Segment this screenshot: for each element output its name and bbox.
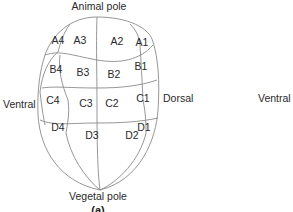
- diagram-labels: Animal pole Vegetal pole Ventral Dorsal …: [0, 0, 293, 212]
- cell-d3: D3: [85, 129, 99, 141]
- ventral-right-label: Ventral: [258, 92, 291, 104]
- cell-b4: B4: [50, 63, 63, 75]
- dorsal-label: Dorsal: [163, 92, 193, 104]
- cell-d2: D2: [125, 129, 139, 141]
- ventral-left-label: Ventral: [3, 98, 36, 110]
- vegetal-pole-label: Vegetal pole: [69, 190, 127, 202]
- cell-d1: D1: [137, 121, 151, 133]
- cell-a2: A2: [111, 35, 124, 47]
- cell-a3: A3: [74, 34, 87, 46]
- cell-a1: A1: [136, 36, 149, 48]
- cell-b1: B1: [135, 60, 148, 72]
- panel-label: (a): [91, 204, 105, 212]
- cell-d4: D4: [51, 121, 65, 133]
- cell-c3: C3: [79, 97, 93, 109]
- animal-pole-label: Animal pole: [72, 0, 127, 12]
- cell-c1: C1: [136, 92, 150, 104]
- cell-b2: B2: [108, 68, 121, 80]
- cell-c2: C2: [105, 97, 119, 109]
- cell-a4: A4: [52, 34, 65, 46]
- cell-b3: B3: [77, 66, 90, 78]
- cell-c4: C4: [46, 94, 60, 106]
